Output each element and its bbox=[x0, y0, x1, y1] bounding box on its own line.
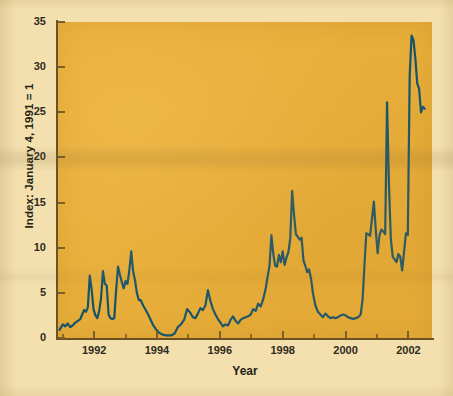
x-tick bbox=[282, 331, 284, 338]
x-tick-label: 1996 bbox=[197, 344, 243, 356]
y-axis-title: Index: January 4, 1991 = 1 bbox=[23, 51, 35, 261]
y-tick bbox=[58, 292, 65, 294]
chart-figure: 05101520253035 199219941996199820002002 … bbox=[0, 0, 453, 396]
y-tick-label: 0 bbox=[18, 331, 46, 343]
x-tick bbox=[345, 331, 347, 338]
x-tick-label: 1998 bbox=[260, 344, 306, 356]
x-tick-label: 2002 bbox=[385, 344, 431, 356]
y-tick bbox=[58, 247, 65, 249]
y-tick-label: 5 bbox=[18, 286, 46, 298]
x-axis-title: Year bbox=[58, 364, 432, 378]
x-minor-tick bbox=[250, 334, 252, 338]
y-tick bbox=[58, 156, 65, 158]
x-tick-label: 1992 bbox=[71, 344, 117, 356]
y-tick bbox=[58, 111, 65, 113]
y-tick bbox=[58, 202, 65, 204]
plot-texture bbox=[58, 22, 432, 338]
x-minor-tick bbox=[376, 334, 378, 338]
x-tick bbox=[407, 331, 409, 338]
x-tick bbox=[156, 331, 158, 338]
x-tick-label: 2000 bbox=[323, 344, 369, 356]
y-tick-label: 35 bbox=[18, 15, 46, 27]
x-tick bbox=[93, 331, 95, 338]
x-tick bbox=[219, 331, 221, 338]
x-axis-line bbox=[56, 338, 434, 340]
plot-area bbox=[58, 22, 432, 338]
x-minor-tick bbox=[313, 334, 315, 338]
x-minor-tick bbox=[125, 334, 127, 338]
x-minor-tick bbox=[187, 334, 189, 338]
y-tick bbox=[58, 66, 65, 68]
x-minor-tick bbox=[62, 334, 64, 338]
y-tick bbox=[58, 21, 65, 23]
x-tick-label: 1994 bbox=[134, 344, 180, 356]
